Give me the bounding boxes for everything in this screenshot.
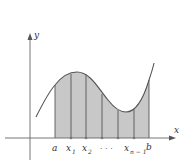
x-axis-label: x bbox=[174, 125, 179, 135]
tick-label-a: a bbox=[52, 143, 57, 153]
tick-label-x2: x bbox=[82, 143, 87, 153]
tick-label-xn1-sub: n − 1 bbox=[130, 148, 147, 155]
y-axis-label: y bbox=[33, 30, 40, 40]
tick-label-b: b bbox=[146, 142, 152, 152]
tick-label-x1-sub: 1 bbox=[72, 148, 76, 155]
tick-label-xn1: x bbox=[124, 143, 129, 153]
riemann-diagram: y x a x 1 x 2 · · · x n − 1 b bbox=[0, 0, 180, 165]
tick-label-x1: x bbox=[66, 143, 71, 153]
tick-label-dots: · · · bbox=[100, 144, 113, 153]
y-axis-arrow-icon bbox=[28, 33, 33, 40]
x-axis-arrow-icon bbox=[169, 136, 176, 141]
tick-label-x2-sub: 2 bbox=[87, 148, 92, 155]
